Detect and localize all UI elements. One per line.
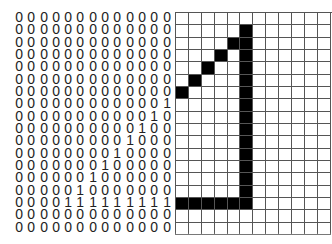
grid-cell-empty xyxy=(292,62,305,74)
grid-cell-empty xyxy=(253,186,266,198)
grid-cell-empty xyxy=(240,210,253,222)
grid-cell-filled xyxy=(189,75,202,87)
grid-cell-filled xyxy=(176,198,189,210)
grid-cell-empty xyxy=(176,210,189,222)
grid-cell-empty xyxy=(189,136,202,148)
grid-cell-empty xyxy=(292,173,305,185)
grid-cell-empty xyxy=(318,149,331,161)
grid-cell-empty xyxy=(292,99,305,111)
grid-cell-empty xyxy=(318,124,331,136)
grid-cell-empty xyxy=(305,124,318,136)
grid-cell-empty xyxy=(266,198,279,210)
grid-cell-empty xyxy=(279,161,292,173)
grid-cell-empty xyxy=(266,25,279,37)
grid-cell-empty xyxy=(266,136,279,148)
grid-cell-empty xyxy=(202,50,215,62)
grid-cell-empty xyxy=(176,186,189,198)
grid-cell-empty xyxy=(228,50,241,62)
grid-row xyxy=(176,75,332,87)
grid-cell-empty xyxy=(202,99,215,111)
grid-cell-empty xyxy=(202,38,215,50)
matrix-digit: 0 xyxy=(14,221,25,233)
grid-cell-empty xyxy=(305,161,318,173)
grid-row xyxy=(176,186,332,198)
grid-cell-empty xyxy=(292,87,305,99)
grid-cell-empty xyxy=(253,161,266,173)
grid-row xyxy=(176,99,332,111)
grid-cell-empty xyxy=(202,210,215,222)
grid-cell-empty xyxy=(292,198,305,210)
binary-digit-matrix: 0000000000000000000000000000000000000000… xyxy=(13,11,173,233)
grid-cell-empty xyxy=(176,173,189,185)
grid-cell-empty xyxy=(228,75,241,87)
grid-row xyxy=(176,50,332,62)
grid-cell-empty xyxy=(189,161,202,173)
grid-cell-empty xyxy=(318,112,331,124)
grid-cell-empty xyxy=(305,136,318,148)
grid-cell-empty xyxy=(279,173,292,185)
grid-cell-empty xyxy=(279,99,292,111)
grid-cell-filled xyxy=(240,112,253,124)
grid-cell-empty xyxy=(176,136,189,148)
grid-cell-empty xyxy=(253,149,266,161)
grid-cell-empty xyxy=(202,149,215,161)
grid-row xyxy=(176,13,332,25)
grid-cell-empty xyxy=(189,13,202,25)
grid-cell-filled xyxy=(176,87,189,99)
grid-cell-empty xyxy=(318,13,331,25)
grid-cell-empty xyxy=(305,99,318,111)
grid-cell-filled xyxy=(240,149,253,161)
grid-cell-empty xyxy=(292,186,305,198)
grid-cell-empty xyxy=(318,173,331,185)
grid-cell-empty xyxy=(176,75,189,87)
grid-cell-empty xyxy=(189,87,202,99)
grid-cell-empty xyxy=(176,149,189,161)
grid-cell-empty xyxy=(176,124,189,136)
grid-cell-empty xyxy=(176,38,189,50)
grid-cell-empty xyxy=(318,210,331,222)
grid-cell-empty xyxy=(305,87,318,99)
grid-cell-empty xyxy=(292,124,305,136)
grid-row xyxy=(176,112,332,124)
grid-cell-empty xyxy=(228,99,241,111)
grid-cell-filled xyxy=(215,50,228,62)
grid-cell-empty xyxy=(176,13,189,25)
grid-cell-empty xyxy=(318,186,331,198)
grid-cell-empty xyxy=(189,50,202,62)
grid-cell-empty xyxy=(189,99,202,111)
grid-cell-empty xyxy=(253,136,266,148)
grid-row xyxy=(176,62,332,74)
grid-cell-empty xyxy=(292,13,305,25)
grid-cell-empty xyxy=(253,25,266,37)
grid-cell-filled xyxy=(240,87,253,99)
matrix-digit: 0 xyxy=(38,221,49,233)
matrix-digit: 0 xyxy=(124,221,135,233)
grid-cell-empty xyxy=(279,62,292,74)
grid-row xyxy=(176,173,332,185)
grid-cell-empty xyxy=(176,99,189,111)
grid-cell-empty xyxy=(305,13,318,25)
pixel-grid xyxy=(175,12,332,235)
grid-row xyxy=(176,198,332,210)
grid-cell-empty xyxy=(228,13,241,25)
grid-cell-empty xyxy=(202,173,215,185)
grid-cell-empty xyxy=(215,161,228,173)
grid-cell-empty xyxy=(253,173,266,185)
grid-cell-empty xyxy=(266,210,279,222)
grid-row xyxy=(176,161,332,173)
matrix-row: 0000000000000 xyxy=(13,221,173,233)
grid-cell-filled xyxy=(240,173,253,185)
grid-cell-empty xyxy=(266,173,279,185)
grid-cell-empty xyxy=(305,186,318,198)
grid-cell-filled xyxy=(240,99,253,111)
grid-cell-empty xyxy=(305,210,318,222)
grid-cell-empty xyxy=(305,173,318,185)
grid-cell-empty xyxy=(202,75,215,87)
grid-cell-empty xyxy=(228,87,241,99)
grid-cell-empty xyxy=(305,50,318,62)
grid-cell-empty xyxy=(292,25,305,37)
grid-cell-empty xyxy=(318,99,331,111)
grid-cell-empty xyxy=(215,210,228,222)
grid-cell-empty xyxy=(318,136,331,148)
grid-cell-empty xyxy=(305,149,318,161)
